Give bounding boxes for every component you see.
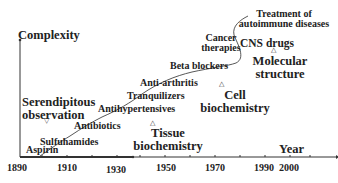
- tick-1970: 1970: [205, 162, 225, 173]
- label-sulfuhamides: Sulfuhamides: [40, 137, 98, 147]
- label-cns-drugs: CNS drugs: [240, 38, 294, 50]
- label-tranquilizers: Tranquilizers: [127, 91, 185, 101]
- label-anti-arthritis: Anti-arthritis: [140, 78, 198, 88]
- tick-2000: 2000: [279, 162, 299, 173]
- x-axis-label: Year: [279, 143, 304, 156]
- label-antihypertensives: Antihypertensives: [98, 104, 175, 114]
- tick-1910: 1910: [57, 162, 77, 173]
- tick-1930: 1930: [106, 164, 126, 175]
- label-autoimmune: Treatment of autoimmune diseases: [230, 9, 338, 29]
- era-serendipitous-observation: Serendipitous observation: [22, 96, 95, 122]
- label-antibiotics: Antibiotics: [74, 121, 121, 131]
- down-triangle-icon: ▽: [44, 118, 49, 125]
- tick-1990: 1990: [254, 162, 274, 173]
- tick-1890: 1890: [7, 162, 27, 173]
- tick-1950: 1950: [156, 162, 176, 173]
- era-molecular-structure: Molecular structure: [240, 55, 320, 81]
- y-axis-label: Complexity: [18, 29, 80, 42]
- up-triangle-icon: △: [219, 81, 224, 88]
- era-tissue-biochemistry: Tissue biochemistry: [128, 127, 208, 153]
- era-cell-biochemistry: Cell biochemistry: [190, 89, 280, 115]
- label-beta-blockers: Beta blockers: [170, 61, 228, 71]
- up-triangle-icon: △: [271, 47, 276, 54]
